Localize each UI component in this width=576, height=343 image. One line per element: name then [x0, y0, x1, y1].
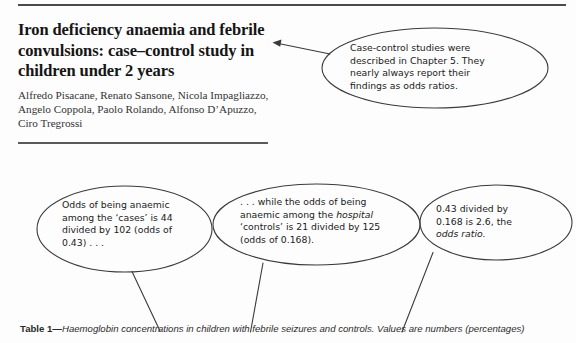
annotation-line: divided by 102 (odds of — [62, 224, 172, 235]
annotation-line: Odds of being anaemic — [62, 199, 170, 210]
annotation-text-odds-cases: Odds of being anaemic among the ‘cases’ … — [62, 199, 214, 249]
authors-rule — [18, 142, 268, 144]
annotation-line: 0.43 divided by — [436, 203, 508, 214]
annotation-line: . . . while the odds of being — [240, 196, 366, 207]
annotation-leader-line-odds-controls — [251, 263, 264, 332]
annotation-line: ‘controls’ is 21 divided by 125 — [240, 221, 380, 232]
table-caption: Table 1—Haemoglobin concentrations in ch… — [20, 323, 576, 335]
annotation-line: 0.43) . . . — [62, 237, 104, 248]
annotation-line-emphasis: hospital — [336, 209, 373, 220]
author-list: Alfredo Pisacane, Renato Sansone, Nicola… — [18, 88, 273, 131]
annotation-line: among the ‘cases’ is 44 — [62, 212, 173, 223]
table-caption-label: Table 1— — [20, 323, 62, 334]
annotation-text-case-control-studies: Case-control studies were described in C… — [350, 42, 530, 92]
annotation-leader-line-odds-ratio-result — [402, 253, 433, 333]
annotation-line: 0.168 is 2.6, the — [436, 216, 512, 227]
table-caption-text: Haemoglobin concentrations in children w… — [62, 323, 525, 334]
annotation-text-odds-ratio-result: 0.43 divided by 0.168 is 2.6, the odds r… — [436, 203, 556, 241]
annotation-line: anaemic among the — [240, 209, 336, 220]
annotation-text-odds-controls: . . . while the odds of being anaemic am… — [240, 196, 420, 246]
page-title: Iron deficiency anaemia and febrile conv… — [18, 20, 288, 82]
annotation-line-emphasis: odds ratio. — [436, 228, 486, 239]
annotation-line: findings as odds ratios. — [350, 80, 458, 91]
document-page: Iron deficiency anaemia and febrile conv… — [0, 0, 576, 343]
annotation-line: nearly always report their — [350, 67, 470, 78]
annotation-line: Case-control studies were — [350, 42, 470, 53]
annotation-line: (odds of 0.168). — [240, 234, 314, 245]
annotation-line: described in Chapter 5. They — [350, 55, 485, 66]
top-rule — [18, 4, 566, 6]
